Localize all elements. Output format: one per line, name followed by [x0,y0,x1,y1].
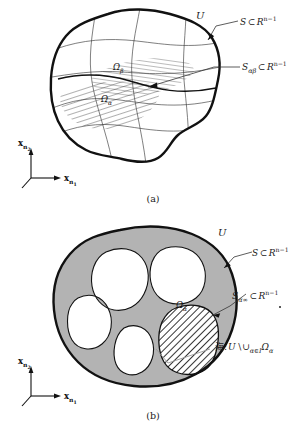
axis-idx-h-a: 1 [73,182,76,187]
label-omega-alpha-b: Ωα [176,300,187,312]
label-s-ainf-sub: α∞ [238,296,248,304]
subset-symbol-a: ⊂ [246,17,257,27]
region-symbol-u-b: U [218,228,226,238]
axes-indicator-b [22,366,61,406]
omega-beta-glyph: Ω [113,62,120,72]
leader-to-boundary-s-b [224,252,252,268]
axis-idx-v-a: 2 [27,147,30,152]
label-r-space-ab: R [267,62,274,72]
axis-label-horizontal-a: xn1 [64,173,77,187]
label-exponent-ainf: n−1 [265,289,278,296]
axis-idx-h-b: 1 [73,400,76,405]
stray-dot-mark [279,306,281,308]
omega-alpha-glyph-a: Ω [101,94,108,104]
omega-alpha-sub-b: α [183,305,187,312]
omega-alpha-sub-a: α [108,99,112,106]
label-r-space-a: R [257,17,264,27]
axis-label-vertical-b: xn2 [18,356,31,370]
label-exponent-a: n−1 [264,15,277,22]
axis-idx-v-b: 2 [27,365,30,370]
label-boundary-surface-a: S⊂Rn−1 [240,16,277,27]
leader-to-boundary-s [208,21,238,40]
omega-alpha-glyph-b: Ω [176,300,183,310]
label-omega-beta: Ωβ [113,62,124,74]
axis-n-v-a: n2 [23,143,31,150]
panel-a-caption: (a) [0,193,306,204]
figure-panel-a: U S⊂Rn−1 Sαβ⊂Rn−1 Ωβ Ωα xn2 xn1 (a) [0,0,306,216]
axis-n-h-b: n1 [69,396,77,403]
label-exponent-ab: n−1 [274,60,287,67]
panel-a-drawing [0,0,306,216]
figure-panel-b: U S⊂Rn−1 Sα∞⊂Rn−1 Ωα 海:U\∪α∈IΩα xn2 xn1 … [0,216,306,433]
sea-union-symbol: ∪ [242,342,250,352]
panel-b-caption: (b) [0,410,306,421]
label-omega-alpha-a: Ωα [101,94,112,106]
label-boundary-surface-b: S⊂Rn−1 [252,247,289,258]
sea-union-sub: α∈I [250,347,262,355]
label-exponent-b: n−1 [276,246,289,253]
sea-omega: Ω [262,342,269,352]
sea-u-symbol: U [227,342,236,352]
subset-symbol-ainf: ⊂ [248,291,259,301]
label-interface-surface-b: Sα∞⊂Rn−1 [232,290,278,303]
sea-omega-sub: α [269,347,273,355]
label-interface-surface-a: Sαβ⊂Rn−1 [242,61,287,74]
omega-beta-sub: β [120,67,123,74]
sea-cjk-glyph: 海 [215,342,224,352]
label-sea-definition: 海:U\∪α∈IΩα [215,343,273,354]
axis-label-horizontal-b: xn1 [64,391,77,405]
axis-label-vertical-a: xn2 [18,138,31,152]
region-symbol-u-a: U [196,11,204,21]
axes-indicator-a [22,148,61,188]
axis-n-v-b: n2 [23,361,31,368]
subset-symbol-b: ⊂ [258,248,269,258]
subset-symbol-ab: ⊂ [256,62,267,72]
label-r-space-b: R [269,248,276,258]
axis-n-h-a: n1 [69,178,77,185]
